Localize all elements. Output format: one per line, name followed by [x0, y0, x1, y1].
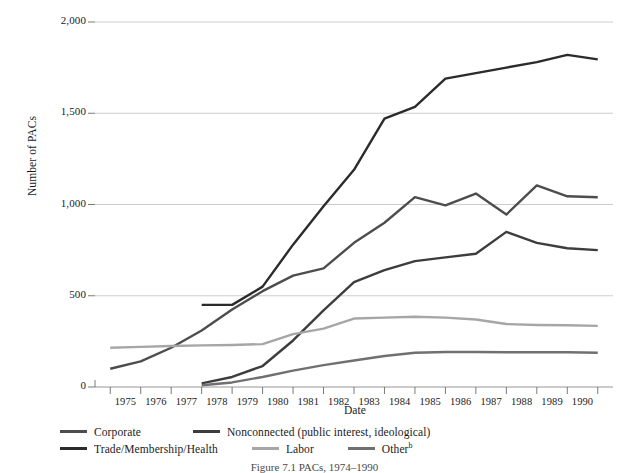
series-line-1 — [202, 232, 598, 383]
y-tick-label-1: 500 — [26, 288, 86, 300]
legend-label: Corporate — [94, 426, 141, 438]
chart-legend: CorporateNonconnected (public interest, … — [60, 423, 620, 457]
legend-swatch-icon — [193, 430, 220, 434]
y-tick-label-3: 1,500 — [26, 105, 86, 117]
figure-caption: Figure 7.1 PACs, 1974–1990 — [0, 461, 629, 473]
legend-row-0: CorporateNonconnected (public interest, … — [60, 423, 620, 440]
legend-item-trade-membership-health[interactable]: Trade/Membership/Health — [60, 443, 218, 455]
legend-swatch-icon — [252, 447, 279, 451]
legend-label: Otherb — [382, 443, 413, 455]
series-line-0 — [110, 185, 598, 368]
legend-label-superscript: b — [409, 441, 413, 450]
legend-swatch-icon — [60, 447, 87, 451]
series-line-2 — [202, 55, 598, 305]
legend-item-other[interactable]: Otherb — [348, 443, 413, 455]
y-tick-label-0: 0 — [26, 379, 86, 391]
y-tick-label-2: 1,000 — [26, 197, 86, 209]
legend-label: Labor — [286, 443, 314, 455]
legend-row-1: Trade/Membership/HealthLaborOtherb — [60, 440, 620, 457]
series-line-4 — [202, 352, 598, 385]
legend-label: Trade/Membership/Health — [94, 443, 218, 455]
legend-label: Nonconnected (public interest, ideologic… — [227, 426, 431, 438]
legend-item-labor[interactable]: Labor — [252, 443, 314, 455]
legend-item-nonconnected-public-interest-ideological[interactable]: Nonconnected (public interest, ideologic… — [193, 426, 431, 438]
y-tick-label-4: 2,000 — [26, 14, 86, 26]
x-tick-label-15: 1990 — [561, 396, 605, 407]
legend-swatch-icon — [348, 447, 375, 451]
legend-swatch-icon — [60, 430, 87, 434]
legend-item-corporate[interactable]: Corporate — [60, 426, 141, 438]
series-line-3 — [110, 317, 598, 348]
